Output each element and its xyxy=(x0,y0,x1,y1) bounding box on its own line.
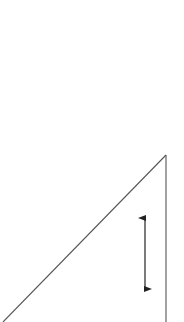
diagram-canvas xyxy=(0,0,184,322)
triangle-hypotenuse xyxy=(3,155,166,322)
